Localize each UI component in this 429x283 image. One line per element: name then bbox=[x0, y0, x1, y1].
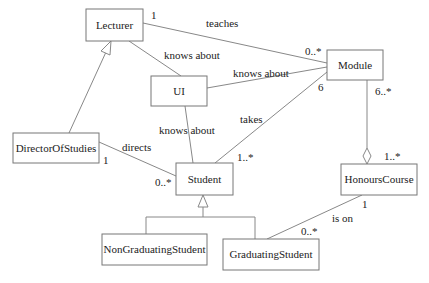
multiplicity-label: 1 bbox=[151, 9, 157, 21]
multiplicity-label: 1..* bbox=[237, 151, 254, 163]
class-name: GraduatingStudent bbox=[229, 248, 312, 260]
multiplicity-label: 6 bbox=[318, 81, 324, 93]
multiplicity-label: 6..* bbox=[375, 85, 392, 97]
association-label-takes: takes bbox=[240, 113, 263, 125]
class-name: Lecturer bbox=[96, 19, 134, 31]
class-name: Module bbox=[338, 59, 372, 71]
multiplicity-label: 0..* bbox=[305, 45, 322, 57]
class-student[interactable]: Student bbox=[176, 163, 233, 195]
multiplicity-label: 1..* bbox=[384, 150, 401, 162]
class-honours-course[interactable]: HonoursCourse bbox=[341, 164, 417, 195]
edge-generalization-director bbox=[69, 52, 106, 133]
class-name: DirectorOfStudies bbox=[16, 142, 97, 154]
class-graduating-student[interactable]: GraduatingStudent bbox=[223, 239, 319, 270]
edge-takes bbox=[215, 72, 327, 163]
class-non-graduating-student[interactable]: NonGraduatingStudent bbox=[102, 234, 207, 265]
association-label-knows-about: knows about bbox=[164, 49, 220, 61]
multiplicity-label: 0..* bbox=[301, 225, 318, 237]
class-module[interactable]: Module bbox=[327, 50, 383, 80]
uml-class-diagram: Lecturer UI Module DirectorOfStudies Stu… bbox=[0, 0, 429, 283]
class-name: UI bbox=[173, 85, 185, 97]
multiplicity-label: 0..* bbox=[155, 176, 172, 188]
aggregation-diamond-icon bbox=[363, 148, 371, 164]
class-name: NonGraduatingStudent bbox=[103, 243, 205, 255]
class-ui[interactable]: UI bbox=[151, 76, 207, 106]
multiplicity-label: 1 bbox=[362, 198, 368, 210]
class-lecturer[interactable]: Lecturer bbox=[86, 9, 143, 41]
class-director-of-studies[interactable]: DirectorOfStudies bbox=[13, 133, 99, 163]
class-name: HonoursCourse bbox=[344, 173, 413, 185]
association-label-teaches: teaches bbox=[206, 17, 238, 29]
association-label-is-on: is on bbox=[332, 212, 354, 224]
generalization-arrow-icon bbox=[101, 41, 111, 55]
generalization-arrow-icon bbox=[198, 195, 208, 207]
association-label-knows-about: knows about bbox=[233, 67, 289, 79]
multiplicity-label: 1 bbox=[103, 154, 109, 166]
association-label-knows-about: knows about bbox=[159, 124, 215, 136]
association-label-directs: directs bbox=[122, 141, 151, 153]
class-name: Student bbox=[188, 173, 222, 185]
